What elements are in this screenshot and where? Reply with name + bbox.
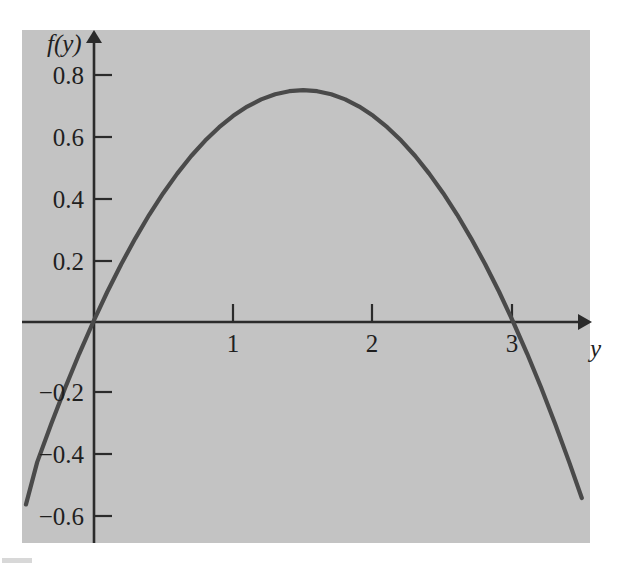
y-axis-label: f(y) (47, 30, 82, 58)
function-curve (26, 90, 582, 504)
y-tick-label: 0.6 (53, 124, 84, 151)
x-tick-label: 3 (506, 330, 519, 357)
y-tick-label: −0.2 (39, 379, 84, 406)
x-axis-label: y (587, 335, 602, 362)
x-tick-label: 1 (227, 330, 240, 357)
chart-canvas: f(y) y 0.8 0.6 0.4 0.2 −0.2 −0.4 −0.6 1 … (0, 0, 622, 568)
y-tick-label: 0.4 (53, 186, 85, 213)
y-tick-label: −0.6 (39, 503, 84, 530)
corner-artifact-mark (2, 558, 32, 563)
y-tick-label: 0.8 (53, 62, 84, 89)
y-tick-label: 0.2 (53, 248, 84, 275)
y-axis-arrow-icon (86, 30, 102, 43)
y-tick-label: −0.4 (39, 441, 85, 468)
x-axis-arrow-icon (578, 314, 592, 330)
figure-container: f(y) y 0.8 0.6 0.4 0.2 −0.2 −0.4 −0.6 1 … (0, 0, 622, 568)
x-tick-label: 2 (366, 330, 379, 357)
